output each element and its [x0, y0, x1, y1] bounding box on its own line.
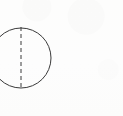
circle-outline — [0, 28, 51, 88]
figure-canvas — [0, 0, 123, 116]
line-drawing-figure — [0, 0, 123, 116]
